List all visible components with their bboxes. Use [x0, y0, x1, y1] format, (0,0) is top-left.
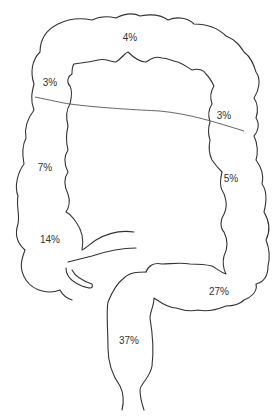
appendix-outline	[66, 268, 92, 288]
label-cecum: 14%	[40, 234, 60, 246]
label-rectum: 37%	[119, 335, 139, 347]
label-hepatic-flexure: 3%	[43, 77, 57, 89]
colon-diagram	[0, 0, 279, 419]
label-ascending-colon: 7%	[38, 162, 52, 174]
label-sigmoid-colon: 27%	[209, 286, 229, 298]
colon-inner-outline	[65, 52, 227, 274]
label-transverse-colon: 4%	[123, 32, 137, 44]
label-splenic-flexure: 3%	[217, 110, 231, 122]
colon-outer-outline	[16, 14, 269, 410]
label-descending-colon: 5%	[224, 173, 238, 185]
